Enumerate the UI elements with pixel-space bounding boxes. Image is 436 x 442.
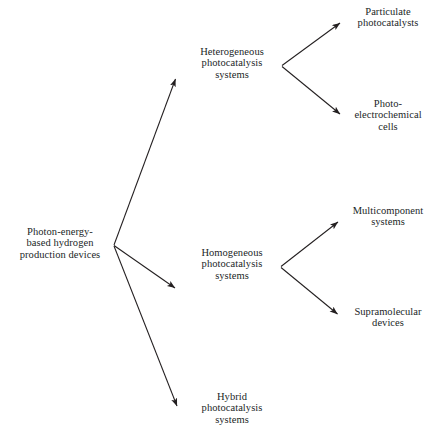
edge-root-to-hybrid bbox=[114, 246, 177, 406]
node-particulate-photocatalysts: Particulate photocatalysts bbox=[341, 6, 435, 29]
edge-heterogeneous-to-particulate bbox=[282, 23, 340, 66]
node-root-line-3: production devices bbox=[2, 249, 118, 260]
edge-root-to-homogeneous bbox=[114, 246, 175, 289]
node-multicomponent-systems: Multicomponent systems bbox=[341, 205, 435, 228]
node-homogeneous-photocatalysis-systems: Homogeneous photocatalysis systems bbox=[182, 247, 282, 281]
node-homogeneous-line-1: Homogeneous bbox=[182, 247, 282, 258]
node-multicomponent-line-2: systems bbox=[341, 216, 435, 227]
node-heterogeneous-line-2: photocatalysis bbox=[182, 57, 282, 68]
node-hybrid-line-3: systems bbox=[182, 414, 282, 425]
node-hybrid-line-1: Hybrid bbox=[182, 391, 282, 402]
node-photoelectrochemical-line-3: cells bbox=[341, 121, 435, 132]
diagram-canvas: Photon-energy- based hydrogen production… bbox=[0, 0, 436, 442]
edge-homogeneous-to-multicomponent bbox=[281, 222, 338, 267]
node-multicomponent-line-1: Multicomponent bbox=[341, 205, 435, 216]
node-photoelectrochemical-line-2: electrochemical bbox=[341, 109, 435, 120]
node-particulate-line-2: photocatalysts bbox=[341, 17, 435, 28]
node-supramolecular-line-2: devices bbox=[341, 317, 435, 328]
node-hybrid-photocatalysis-systems: Hybrid photocatalysis systems bbox=[182, 391, 282, 425]
node-photoelectrochemical-line-1: Photo- bbox=[341, 98, 435, 109]
node-heterogeneous-line-3: systems bbox=[182, 69, 282, 80]
edge-heterogeneous-to-photoelectrochemical bbox=[282, 67, 340, 115]
node-supramolecular-line-1: Supramolecular bbox=[341, 306, 435, 317]
node-supramolecular-devices: Supramolecular devices bbox=[341, 306, 435, 329]
node-homogeneous-line-2: photocatalysis bbox=[182, 258, 282, 269]
node-particulate-line-1: Particulate bbox=[341, 6, 435, 17]
node-photo-electrochemical-cells: Photo- electrochemical cells bbox=[341, 98, 435, 132]
node-root: Photon-energy- based hydrogen production… bbox=[2, 226, 118, 260]
node-hybrid-line-2: photocatalysis bbox=[182, 402, 282, 413]
edge-root-to-heterogeneous bbox=[114, 79, 176, 245]
node-heterogeneous-photocatalysis-systems: Heterogeneous photocatalysis systems bbox=[182, 46, 282, 80]
node-homogeneous-line-3: systems bbox=[182, 270, 282, 281]
node-root-line-1: Photon-energy- bbox=[2, 226, 118, 237]
node-heterogeneous-line-1: Heterogeneous bbox=[182, 46, 282, 57]
node-root-line-2: based hydrogen bbox=[2, 237, 118, 248]
edge-homogeneous-to-supramolecular bbox=[281, 268, 338, 315]
